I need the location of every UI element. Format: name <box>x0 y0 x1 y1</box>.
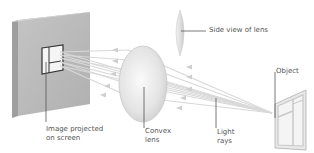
label-light-line1: Light <box>217 128 234 137</box>
label-object: Object <box>276 67 299 76</box>
object-window <box>275 90 306 150</box>
projected-image <box>42 45 63 74</box>
label-light-line2: rays <box>217 137 234 146</box>
label-image-line2: on screen <box>46 134 103 143</box>
label-convex-lens: Convex lens <box>145 127 171 144</box>
projection-screen <box>12 12 90 118</box>
convex-lens <box>119 46 167 122</box>
label-convex-line1: Convex <box>145 127 171 136</box>
label-convex-line2: lens <box>145 136 171 145</box>
label-image-projected: Image projected on screen <box>46 125 103 142</box>
label-image-line1: Image projected <box>46 125 103 134</box>
label-side-view: Side view of lens <box>209 26 268 35</box>
label-light-rays: Light rays <box>217 128 234 145</box>
lens-diagram: Side view of lens Object Image projected… <box>0 0 314 153</box>
side-view-lens <box>176 10 184 56</box>
